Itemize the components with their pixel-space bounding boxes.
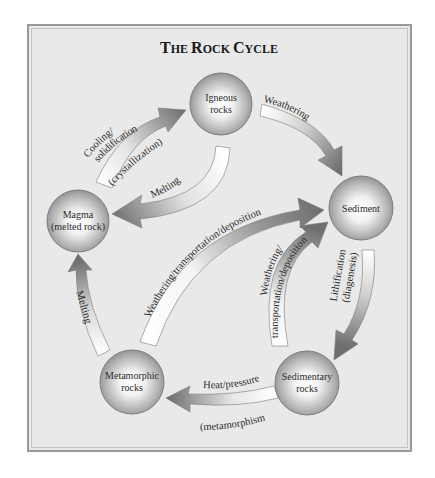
node-sedimentary-rocks: Sedimentary rocks bbox=[275, 351, 339, 415]
svg-text:rocks: rocks bbox=[121, 382, 143, 393]
svg-text:rocks: rocks bbox=[296, 383, 318, 394]
svg-text:rocks: rocks bbox=[210, 104, 232, 115]
label-heat-pressure: Heat/pressure bbox=[203, 372, 261, 390]
node-igneous-rocks: Igneous rocks bbox=[190, 73, 252, 135]
svg-text:Sediment: Sediment bbox=[342, 203, 380, 214]
node-magma: Magma (melted rock) bbox=[47, 190, 109, 252]
svg-text:Igneous: Igneous bbox=[205, 92, 237, 103]
rock-cycle-diagram: THE ROCK CYCLE Igneous rocks Magma bbox=[0, 0, 435, 478]
node-metamorphic-rocks: Metamorphic rocks bbox=[100, 350, 164, 414]
svg-text:Sedimentary: Sedimentary bbox=[282, 371, 333, 382]
diagram-title: THE ROCK CYCLE bbox=[160, 39, 278, 56]
svg-text:(melted rock): (melted rock) bbox=[51, 221, 105, 233]
svg-text:Metamorphic: Metamorphic bbox=[105, 370, 159, 381]
node-sediment: Sediment bbox=[329, 176, 393, 240]
svg-text:Magma: Magma bbox=[63, 209, 94, 220]
